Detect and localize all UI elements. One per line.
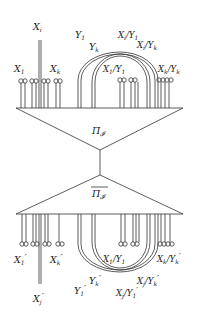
tensor-network-diagram: Π𝓘 Π𝓘 xyxy=(0,0,203,324)
label-xj-prime: Xj′ xyxy=(32,291,45,306)
top-block-label: Π𝓘 xyxy=(91,125,107,138)
label-y1: Y1 xyxy=(75,29,85,41)
label-xi-yk: Xi/Yk xyxy=(136,40,157,51)
label-y1-prime: Y1′ xyxy=(74,283,87,297)
label-xj-y1-prime: Xj/Y1′ xyxy=(115,286,138,300)
bottom-block-label: Π𝓘 xyxy=(91,187,108,201)
svg-text:Π𝓘: Π𝓘 xyxy=(91,188,107,201)
bottom-legs xyxy=(20,214,174,284)
label-x1-y1-bottom: X1/Y1 xyxy=(102,254,125,265)
label-x1: X1 xyxy=(13,63,25,75)
label-xi: Xi xyxy=(32,21,42,33)
label-yk-prime: Yk′ xyxy=(89,273,102,287)
label-xk-prime: Xk′ xyxy=(49,252,63,266)
label-xi-y1: Xi/Y1 xyxy=(117,30,138,41)
label-xk-yk: Xk/Yk xyxy=(157,64,180,75)
label-x1-y1: X1/Y1 xyxy=(102,64,125,75)
label-xk-yk-prime: Xk/Yk′ xyxy=(156,252,181,265)
label-xk: Xk xyxy=(49,63,61,75)
label-yk: Yk xyxy=(89,41,99,53)
bottom-labels: X1′ Xk′ Xj′ Yk′ Y1′ X1/Y1 Xk/Yk′ Xj/Yk′ … xyxy=(13,252,181,306)
label-xj-yk-prime: Xj/Yk′ xyxy=(136,274,159,288)
label-x1-prime: X1′ xyxy=(13,252,28,266)
